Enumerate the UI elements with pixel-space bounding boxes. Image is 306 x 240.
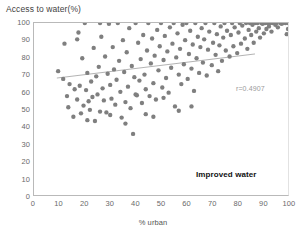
scatter-point bbox=[140, 101, 144, 105]
scatter-point bbox=[112, 67, 116, 71]
scatter-point bbox=[84, 88, 88, 92]
scatter-point bbox=[161, 96, 165, 100]
scatter-point bbox=[244, 23, 248, 25]
scatter-point bbox=[196, 35, 200, 39]
scatter-point bbox=[182, 62, 186, 66]
scatter-point bbox=[79, 111, 83, 115]
y-tick-label: 40 bbox=[2, 122, 30, 131]
scatter-point bbox=[76, 30, 80, 34]
scatter-point bbox=[189, 66, 193, 70]
scatter-point bbox=[152, 54, 156, 58]
x-tick-label: 10 bbox=[47, 199, 71, 208]
scatter-point bbox=[86, 99, 90, 103]
y-tick-label: 100 bbox=[2, 18, 30, 27]
x-tick-label: 50 bbox=[149, 199, 173, 208]
scatter-point bbox=[191, 42, 195, 46]
scatter-point bbox=[258, 35, 262, 39]
scatter-point bbox=[154, 97, 158, 101]
scatter-point bbox=[156, 68, 160, 72]
scatter-point bbox=[97, 65, 101, 69]
scatter-point bbox=[239, 41, 243, 45]
scatter-point bbox=[219, 24, 223, 28]
scatter-point bbox=[108, 83, 112, 87]
y-tick-label: 90 bbox=[2, 35, 30, 44]
scatter-point bbox=[194, 56, 198, 60]
scatter-point bbox=[111, 45, 115, 49]
scatter-points bbox=[56, 23, 288, 136]
scatter-point bbox=[75, 37, 79, 41]
scatter-point bbox=[144, 87, 148, 91]
scatter-point bbox=[199, 26, 203, 30]
scatter-point bbox=[100, 86, 104, 90]
scatter-point bbox=[215, 32, 219, 36]
scatter-point bbox=[203, 23, 207, 25]
scatter-point bbox=[207, 29, 211, 33]
scatter-point bbox=[83, 23, 87, 25]
scatter-point bbox=[137, 78, 141, 82]
scatter-point bbox=[184, 23, 188, 25]
scatter-point bbox=[85, 71, 89, 75]
scatter-point bbox=[150, 36, 154, 40]
scatter-point bbox=[131, 132, 135, 136]
scatter-point bbox=[221, 35, 225, 39]
scatter-point bbox=[61, 77, 65, 81]
scatter-point bbox=[98, 109, 102, 113]
scatter-point bbox=[122, 70, 126, 74]
scatter-point bbox=[236, 30, 240, 34]
scatter-point bbox=[169, 66, 173, 70]
scatter-point bbox=[138, 57, 142, 61]
scatter-point bbox=[172, 23, 176, 25]
scatter-point bbox=[71, 115, 75, 119]
scatter-point bbox=[125, 50, 129, 54]
scatter-point bbox=[166, 90, 170, 94]
scatter-point bbox=[142, 72, 146, 76]
scatter-point bbox=[94, 74, 98, 78]
scatter-point bbox=[187, 52, 191, 56]
scatter-point bbox=[98, 23, 102, 25]
scatter-point bbox=[225, 29, 229, 33]
x-tick-label: 60 bbox=[175, 199, 199, 208]
scatter-point bbox=[66, 105, 70, 109]
scatter-point bbox=[168, 25, 172, 29]
scatter-point bbox=[232, 25, 236, 29]
scatter-point bbox=[113, 103, 117, 107]
scatter-point bbox=[230, 23, 234, 25]
scatter-point bbox=[75, 97, 79, 101]
scatter-point bbox=[249, 33, 253, 37]
scatter-point bbox=[62, 41, 66, 45]
scatter-point bbox=[108, 113, 112, 117]
scatter-point bbox=[67, 82, 71, 86]
x-axis-title: % urban bbox=[0, 218, 306, 227]
scatter-point bbox=[65, 94, 69, 98]
scatter-point bbox=[276, 25, 280, 29]
scatter-point bbox=[151, 81, 155, 85]
scatter-point bbox=[170, 41, 174, 45]
scatter-point bbox=[227, 54, 231, 58]
scatter-point bbox=[185, 77, 189, 81]
scatter-point bbox=[212, 23, 216, 25]
scatter-point bbox=[123, 121, 127, 125]
scatter-point bbox=[252, 41, 256, 45]
scatter-point bbox=[133, 92, 137, 96]
y-tick-label: 60 bbox=[2, 87, 30, 96]
scatter-point bbox=[205, 73, 209, 77]
scatter-point bbox=[102, 98, 106, 102]
x-tick-label: 90 bbox=[251, 199, 275, 208]
scatter-point bbox=[173, 104, 177, 108]
scatter-point bbox=[198, 45, 202, 49]
x-tick-label: 40 bbox=[123, 199, 147, 208]
scatter-point bbox=[202, 37, 206, 41]
scatter-point bbox=[188, 29, 192, 33]
scatter-point bbox=[217, 43, 221, 47]
scatter-point bbox=[160, 85, 164, 89]
scatter-point bbox=[81, 103, 85, 107]
scatter-point bbox=[174, 55, 178, 59]
scatter-point bbox=[220, 59, 224, 63]
scatter-point bbox=[132, 75, 136, 79]
y-tick-label: 10 bbox=[2, 174, 30, 183]
scatter-point bbox=[119, 115, 123, 119]
scatter-point bbox=[93, 119, 97, 123]
y-tick-label: 30 bbox=[2, 139, 30, 148]
scatter-point bbox=[165, 49, 169, 53]
scatter-point bbox=[183, 38, 187, 42]
